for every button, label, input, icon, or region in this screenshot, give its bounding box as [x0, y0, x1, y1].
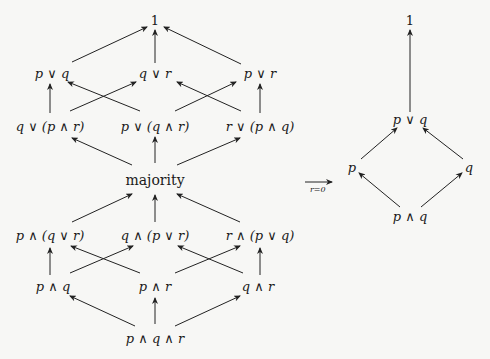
- node-p-and-r: p ∧ r: [139, 280, 171, 293]
- node-p-and-q-or-r: p ∧ (q ∨ r): [16, 229, 85, 242]
- node-r-or-p-and-q: r ∨ (p ∧ q): [226, 120, 295, 133]
- node-top: 1: [151, 14, 159, 27]
- right-node-p-and-q: p ∧ q: [393, 210, 427, 223]
- right-node-q: q: [465, 161, 473, 174]
- node-p-or-r: p ∨ r: [244, 67, 276, 80]
- node-majority: majority: [125, 173, 184, 187]
- node-p-and-q: p ∧ q: [36, 280, 70, 293]
- right-node-p: p: [348, 161, 356, 174]
- diagram-arrows: [0, 0, 490, 359]
- node-q-and-r: q ∧ r: [242, 280, 274, 293]
- right-node-top: 1: [406, 14, 414, 27]
- node-p-or-q: p ∨ q: [35, 67, 69, 80]
- node-p-or-q-and-r: p ∨ (q ∧ r): [121, 120, 190, 133]
- map-arrow-label: r=0: [310, 185, 326, 194]
- right-node-p-or-q: p ∨ q: [393, 113, 427, 126]
- node-q-or-p-and-r: q ∨ (p ∧ r): [16, 120, 85, 133]
- node-q-and-p-or-r: q ∧ (p ∨ r): [121, 229, 190, 242]
- node-r-and-p-or-q: r ∧ (p ∨ q): [226, 229, 295, 242]
- node-p-and-q-and-r: p ∧ q ∧ r: [126, 332, 184, 345]
- node-q-or-r: q ∨ r: [139, 67, 171, 80]
